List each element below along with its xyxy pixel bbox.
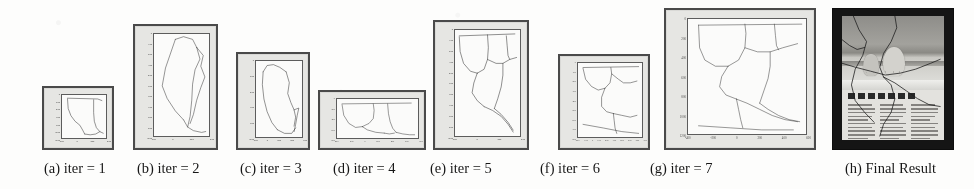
y-tick-label: 100 xyxy=(449,39,453,42)
x-tick-label: 400 xyxy=(210,138,214,141)
curve-group-b xyxy=(154,34,209,136)
axes-background-a: 020040060080010001200-2000200400 xyxy=(45,89,111,147)
y-tick-label: 600 xyxy=(148,95,152,98)
y-tick-label: 600 xyxy=(331,129,335,132)
y-tick-label: 300 xyxy=(572,90,576,93)
y-tick-label: 800 xyxy=(56,124,60,127)
y-tick-label: 400 xyxy=(250,91,254,94)
curve-group-d xyxy=(337,99,418,138)
x-tick-label: -100 xyxy=(583,139,587,142)
x-tick-label: 200 xyxy=(605,139,609,142)
axes-background-g: 020040060080010001200-400-2000200400600 xyxy=(667,11,813,147)
x-tick-label: 0 xyxy=(172,138,173,141)
y-axis-ticks-b: 01002003004005006007008009001000 xyxy=(136,32,152,140)
x-tick-label: 200 xyxy=(91,140,95,143)
plot-area-a xyxy=(61,94,107,139)
x-tick-label: 200 xyxy=(498,138,502,141)
y-axis-ticks-c: 02004006008001000 xyxy=(239,59,254,141)
x-tick-label: -200 xyxy=(59,140,64,143)
x-tick-label: 400 xyxy=(107,140,111,143)
y-tick-label: 500 xyxy=(148,85,152,88)
y-tick-label: 1000 xyxy=(680,115,686,119)
x-tick-label: 0 xyxy=(736,136,738,140)
plot-panel-d: 0200400600800-400-2000200400600800 xyxy=(318,90,426,150)
y-tick-label: 0 xyxy=(59,93,60,96)
caption-f: (f) iter = 6 xyxy=(540,160,600,177)
y-tick-label: 100 xyxy=(148,43,152,46)
y-tick-label: 200 xyxy=(250,75,254,78)
plot-area-g xyxy=(687,18,807,135)
x-tick-label: 800 xyxy=(419,140,423,143)
y-tick-label: 600 xyxy=(449,93,453,96)
x-tick-label: 0 xyxy=(76,140,77,143)
x-tick-label: 400 xyxy=(782,136,787,140)
y-tick-label: 700 xyxy=(572,128,576,131)
y-tick-label: 0 xyxy=(253,59,254,62)
x-tick-label: -200 xyxy=(575,139,579,142)
axes-background-b: 01002003004005006007008009001000-2000200… xyxy=(136,27,215,147)
y-tick-label: 500 xyxy=(449,82,453,85)
y-tick-label: 400 xyxy=(148,74,152,77)
y-tick-label: 700 xyxy=(449,104,453,107)
x-tick-label: 600 xyxy=(806,136,811,140)
y-tick-label: 400 xyxy=(572,100,576,103)
x-tick-label: -200 xyxy=(253,139,258,142)
x-tick-label: 200 xyxy=(277,139,281,142)
newspaper-page-image xyxy=(842,16,944,140)
axes-background-d: 0200400600800-400-2000200400600800 xyxy=(321,93,423,147)
y-tick-label: 1000 xyxy=(55,131,60,134)
y-tick-label: 400 xyxy=(681,56,686,60)
x-axis-ticks-f: -200-1000100200300400500600700 xyxy=(575,139,647,147)
x-tick-label: 400 xyxy=(620,139,624,142)
y-tick-label: 900 xyxy=(148,127,152,130)
y-tick-label: 100 xyxy=(572,71,576,74)
y-tick-label: 500 xyxy=(572,109,576,112)
caption-g: (g) iter = 7 xyxy=(650,160,713,177)
y-tick-label: 800 xyxy=(148,116,152,119)
x-tick-label: 0 xyxy=(592,139,593,142)
plot-area-f xyxy=(577,62,643,138)
caption-h: (h) Final Result xyxy=(845,160,936,177)
x-tick-label: 400 xyxy=(290,139,294,142)
x-tick-label: 0 xyxy=(476,138,477,141)
y-tick-label: 400 xyxy=(56,108,60,111)
x-tick-label: -400 xyxy=(334,140,338,143)
x-tick-label: 200 xyxy=(376,140,380,143)
plot-panel-e: 01002003004005006007008009001000-2000200… xyxy=(433,20,529,150)
y-tick-label: 200 xyxy=(56,101,60,104)
x-axis-ticks-e: -2000200400 xyxy=(452,138,525,147)
caption-c: (c) iter = 3 xyxy=(240,160,302,177)
x-tick-label: -200 xyxy=(349,140,353,143)
x-tick-label: 0 xyxy=(364,140,365,143)
x-tick-label: 200 xyxy=(757,136,762,140)
y-axis-ticks-e: 01002003004005006007008009001000 xyxy=(436,28,453,140)
plot-panel-c: 02004006008001000-2000200400600 xyxy=(236,52,310,150)
x-tick-label: 600 xyxy=(636,139,640,142)
y-tick-label: 0 xyxy=(575,61,576,64)
y-tick-label: 600 xyxy=(250,106,254,109)
x-axis-ticks-b: -2000200400 xyxy=(151,138,214,147)
curve-group-c xyxy=(256,61,302,137)
x-tick-label: 500 xyxy=(628,139,632,142)
caption-d: (d) iter = 4 xyxy=(333,160,396,177)
plot-panel-f: 0100200300400500600700800-200-1000100200… xyxy=(558,54,650,150)
y-tick-label: 0 xyxy=(334,97,335,100)
caption-row: (a) iter = 1(b) iter = 2(c) iter = 3(d) … xyxy=(0,152,974,189)
caption-e: (e) iter = 5 xyxy=(430,160,492,177)
y-tick-label: 300 xyxy=(148,64,152,67)
curve-group-e xyxy=(455,30,520,136)
x-tick-label: 600 xyxy=(405,140,409,143)
y-tick-label: 0 xyxy=(151,32,152,35)
plot-area-c xyxy=(255,60,303,138)
y-tick-label: 600 xyxy=(56,116,60,119)
plot-panel-b: 01002003004005006007008009001000-2000200… xyxy=(133,24,218,150)
axes-background-e: 01002003004005006007008009001000-2000200… xyxy=(436,23,526,147)
x-tick-label: -200 xyxy=(711,136,717,140)
y-tick-label: 900 xyxy=(449,126,453,129)
x-tick-label: -200 xyxy=(151,138,156,141)
plot-panel-row: 020040060080010001200-200020040001002003… xyxy=(0,0,974,152)
y-axis-ticks-d: 0200400600800 xyxy=(321,97,335,142)
y-tick-label: 200 xyxy=(572,80,576,83)
plot-area-e xyxy=(454,29,521,137)
plot-panel-g: 020040060080010001200-400-2000200400600 xyxy=(664,8,816,150)
